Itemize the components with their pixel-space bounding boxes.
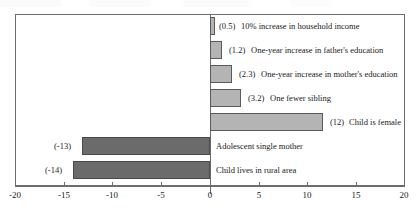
x-axis-tick-label: 15 [352,190,361,201]
x-axis-tick-label: -20 [9,190,21,201]
x-axis-tick-label: -10 [106,190,118,201]
x-axis-tick-label: -15 [58,190,70,201]
bar-row [210,65,232,83]
bar-category-label: Child lives in rural area [216,165,296,175]
x-axis-tick-label: 10 [303,190,312,201]
x-axis-tick [210,182,211,187]
x-axis-tick [356,182,357,187]
bar-value-label: (3.2) [248,93,264,103]
x-axis-tick [259,182,260,187]
x-axis-tick [64,182,65,187]
bar-category-label: One-year increase in father's education [251,45,383,55]
x-axis-tick-label: 20 [400,190,409,201]
bar-value-label: (1.2) [229,45,245,55]
bar-row [210,17,215,35]
x-axis-tick-label: -5 [157,190,165,201]
x-axis-tick [15,182,16,187]
x-axis-tick [112,182,113,187]
x-axis-tick [307,182,308,187]
bar-row [73,161,210,179]
x-axis-tick-label: 0 [208,190,213,201]
bar-category-label: One-year increase in mother's education [261,69,398,79]
bar-category-label: Adolescent single mother [216,141,303,151]
bar-value-label: (-13) [54,141,71,151]
chart-page: (0.5) 10% increase in household income (… [0,0,419,213]
bar-category-label: Child is female [349,117,401,127]
x-axis-tick [161,182,162,187]
bar-category-label: 10% increase in household income [241,21,360,31]
x-axis-tick-label: 5 [257,190,262,201]
bar-row [210,41,222,59]
x-axis-tick [404,182,405,187]
bar-row [210,113,323,131]
bar-value-label: (-14) [45,165,62,175]
bar-value-label: (12) [330,117,344,127]
bar-row [210,89,241,107]
bar-value-label: (0.5) [219,21,235,31]
bar-category-label: One fewer sibling [270,93,331,103]
bar-value-label: (2.3) [239,69,255,79]
bar-row [82,137,210,155]
